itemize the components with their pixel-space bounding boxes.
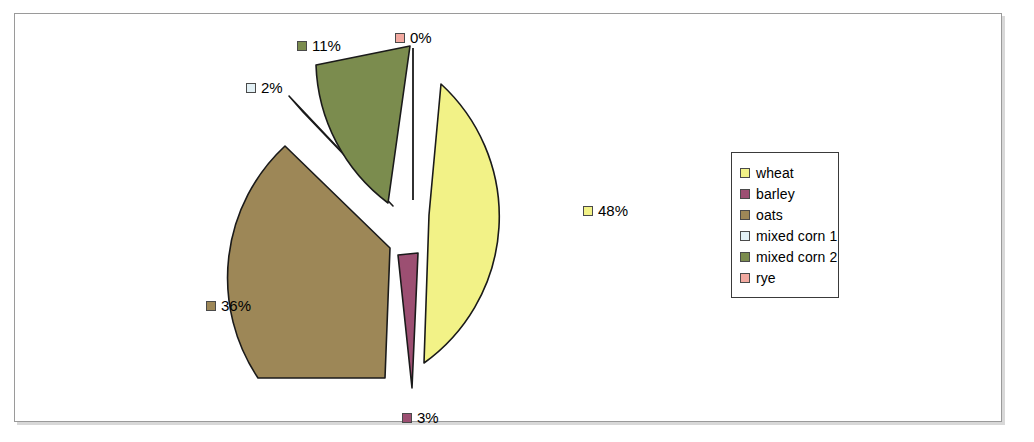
barley-label-text: 3% [417,410,439,425]
data-label-mixed-corn-2: 11% [297,38,341,53]
mixed-corn-2-legend-swatch [740,252,750,262]
wheat-label-swatch [583,206,593,216]
rye-label-text: 0% [410,30,432,45]
legend-label-wheat: wheat [756,166,794,180]
pie-chart-figure: 0% 11% 2% 48% 36% 3% wheat barley oats [0,0,1034,442]
legend-label-oats: oats [756,208,783,222]
rye-label-swatch [395,33,405,43]
barley-label-swatch [402,413,412,423]
data-label-barley: 3% [402,410,439,425]
legend-label-mixed-corn-1: mixed corn 1 [756,229,837,243]
mixed-corn-1-label-swatch [246,83,256,93]
legend-label-barley: barley [756,187,795,201]
wheat-label-text: 48% [598,203,628,218]
data-label-mixed-corn-1: 2% [246,80,283,95]
legend-item-oats[interactable]: oats [740,204,832,225]
data-label-wheat: 48% [583,203,628,218]
pie-slice-mixed-corn-2[interactable] [316,46,410,203]
oats-label-swatch [206,301,216,311]
legend-item-rye[interactable]: rye [740,267,832,288]
pie-plot-area [0,0,1034,442]
pie-slice-barley[interactable] [398,253,418,388]
mixed-corn-2-label-text: 11% [312,38,341,53]
oats-label-text: 36% [221,298,251,313]
legend-label-mixed-corn-2: mixed corn 2 [756,250,837,264]
barley-legend-swatch [740,189,750,199]
rye-legend-swatch [740,273,750,283]
mixed-corn-1-label-text: 2% [261,80,283,95]
legend-item-wheat[interactable]: wheat [740,162,832,183]
data-label-rye: 0% [395,30,432,45]
legend-item-mixed-corn-2[interactable]: mixed corn 2 [740,246,832,267]
legend-label-rye: rye [756,271,776,285]
wheat-legend-swatch [740,168,750,178]
pie-slice-wheat[interactable] [424,84,499,363]
legend-item-mixed-corn-1[interactable]: mixed corn 1 [740,225,832,246]
chart-legend: wheat barley oats mixed corn 1 mixed cor… [731,152,839,298]
mixed-corn-1-legend-swatch [740,231,750,241]
mixed-corn-2-label-swatch [297,41,307,51]
oats-legend-swatch [740,210,750,220]
data-label-oats: 36% [206,298,251,313]
legend-item-barley[interactable]: barley [740,183,832,204]
